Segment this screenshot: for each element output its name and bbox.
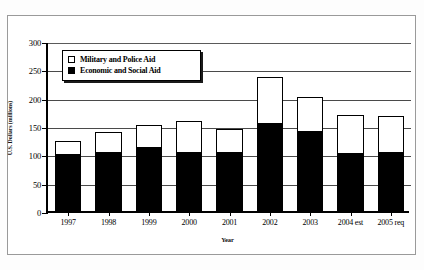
x-axis-tick <box>149 211 150 216</box>
x-axis-tick <box>351 211 352 216</box>
bar-segment-economic <box>217 152 242 210</box>
bar-1997 <box>55 141 82 211</box>
bar-segment-economic <box>379 152 404 210</box>
bar-1999 <box>136 125 163 211</box>
y-axis-label: 300 <box>29 38 41 48</box>
bar-segment-economic <box>177 152 202 210</box>
x-axis-tick <box>68 211 69 216</box>
bar-2001 <box>216 129 243 211</box>
x-axis-tick <box>230 211 231 216</box>
y-axis-tick <box>42 128 48 129</box>
y-axis-label: 200 <box>29 95 41 105</box>
x-axis-label: 1999 <box>141 218 156 227</box>
x-axis-tick <box>189 211 190 216</box>
legend-swatch-military-icon <box>68 56 75 63</box>
bar-segment-economic <box>298 131 323 210</box>
x-axis-label: 2003 <box>303 218 318 227</box>
legend-label-military: Military and Police Aid <box>80 55 155 64</box>
bar-segment-economic <box>338 153 363 210</box>
bar-2004-est <box>337 115 364 211</box>
bar-2002 <box>257 77 284 211</box>
y-axis-label: 250 <box>29 66 41 76</box>
x-axis-label: 1997 <box>61 218 76 227</box>
x-axis-tick <box>310 211 311 216</box>
y-axis-tick <box>42 43 48 44</box>
bar-2000 <box>176 121 203 211</box>
gridline <box>48 43 411 44</box>
y-axis-tick <box>42 213 48 214</box>
legend-item-military: Military and Police Aid <box>68 54 195 65</box>
x-axis-label: 2005 req <box>378 218 405 227</box>
chart-figure: U.S. Dollars (millions) 0501001502002503… <box>0 0 424 270</box>
gridline <box>48 100 411 101</box>
x-axis-label: 2001 <box>222 218 237 227</box>
x-axis-label: 1998 <box>101 218 116 227</box>
x-axis-label: 2000 <box>182 218 197 227</box>
bar-segment-economic <box>96 152 121 210</box>
bar-2005-req <box>378 116 405 211</box>
x-axis-tick <box>391 211 392 216</box>
y-axis-label: 100 <box>29 151 41 161</box>
legend-item-economic: Economic and Social Aid <box>68 65 195 76</box>
bar-segment-economic <box>56 154 81 210</box>
chart-legend: Military and Police Aid Economic and Soc… <box>62 50 201 81</box>
y-axis-tick <box>42 100 48 101</box>
x-axis-tick <box>109 211 110 216</box>
y-axis-tick <box>42 71 48 72</box>
bar-2003 <box>297 97 324 211</box>
bar-segment-economic <box>137 147 162 210</box>
y-axis-label: 0 <box>37 208 41 218</box>
x-axis-title: Year <box>46 236 409 243</box>
bar-segment-economic <box>258 123 283 210</box>
y-axis-tick <box>42 185 48 186</box>
y-axis-title: U.S. Dollars (millions) <box>7 101 13 155</box>
legend-label-economic: Economic and Social Aid <box>80 66 161 75</box>
legend-swatch-economic-icon <box>68 67 75 74</box>
x-axis-label: 2004 est <box>338 218 363 227</box>
y-axis-tick <box>42 156 48 157</box>
y-axis-label: 150 <box>29 123 41 133</box>
bar-1998 <box>95 132 122 211</box>
y-axis-label: 50 <box>33 180 41 190</box>
x-axis-tick <box>270 211 271 216</box>
x-axis-label: 2002 <box>262 218 277 227</box>
